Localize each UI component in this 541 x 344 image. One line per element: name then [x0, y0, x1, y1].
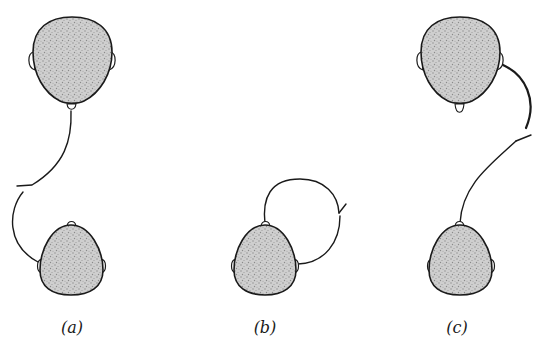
wire-break-c: [516, 135, 531, 141]
large-head-c: [417, 17, 503, 112]
wire-break-b: [339, 204, 346, 213]
small-head-b: [232, 222, 299, 296]
head-shape: [33, 17, 112, 103]
small-head-a: [38, 222, 106, 296]
panel-b: [232, 179, 347, 295]
nose-icon: [67, 104, 76, 109]
panel-a: [13, 17, 116, 295]
panel-label-b: (b): [245, 318, 285, 337]
head-shape: [40, 225, 103, 295]
nose-icon: [455, 104, 464, 112]
panel-label-a: (a): [52, 318, 92, 337]
wire-segment-lower-a: [13, 192, 38, 262]
head-shape: [421, 17, 500, 103]
large-head-a: [29, 17, 115, 109]
panel-c: [417, 17, 531, 295]
small-head-c: [428, 222, 495, 296]
head-shape: [429, 225, 492, 295]
panel-label-c: (c): [437, 318, 477, 337]
wire-segment-upper-c: [503, 65, 531, 128]
head-shape: [234, 225, 296, 295]
wire-segment-upper-a: [17, 111, 71, 186]
wire-segment-upper-b: [264, 179, 339, 224]
wire-segment-lower-c: [460, 141, 516, 223]
head-wiring-diagram: [0, 0, 541, 344]
wire-segment-lower-b: [298, 216, 340, 264]
